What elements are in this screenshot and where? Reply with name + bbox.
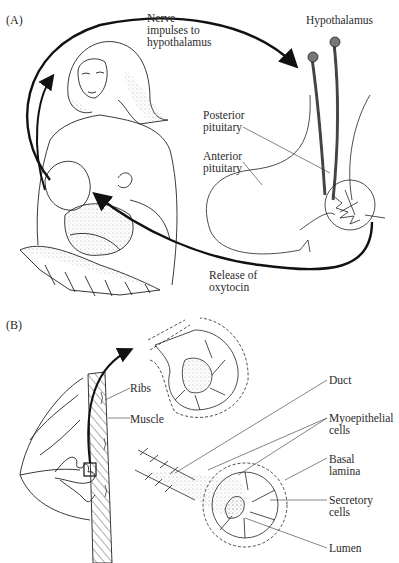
label-muscle: Muscle [130, 413, 164, 425]
label-line: pituitary [203, 121, 245, 133]
alveolus-top [148, 318, 248, 417]
label-myoepithelial-cells: Myoepithelial cells [329, 412, 394, 436]
label-duct: Duct [329, 374, 351, 386]
mother-and-infant-illustration [20, 42, 177, 296]
label-line: Release of [209, 269, 257, 281]
label-line: hypothalamus [147, 36, 212, 48]
callout-lines-a [243, 127, 330, 185]
label-ribs: Ribs [130, 382, 151, 394]
label-basal-lamina: Basal lamina [329, 453, 360, 477]
panel-b-tag: (B) [6, 318, 22, 333]
label-hypothalamus: Hypothalamus [306, 14, 373, 26]
label-secretory-cells: Secretory cells [329, 494, 373, 518]
hypothalamus-pituitary-illustration [206, 37, 385, 254]
label-line: cells [329, 424, 394, 436]
callout-lines-b [105, 380, 327, 548]
label-line: Basal [329, 453, 360, 465]
label-line: Posterior [203, 109, 245, 121]
label-line: Anterior [203, 150, 242, 162]
label-anterior-pituitary: Anterior pituitary [203, 150, 242, 174]
panel-a-tag: (A) [6, 13, 23, 28]
lactation-diagram: (A) Nerve impulses to hypothalamus Hypot… [0, 0, 399, 563]
label-lumen: Lumen [329, 542, 362, 554]
label-line: oxytocin [209, 281, 257, 293]
alveolus-bottom [135, 448, 287, 547]
label-line: impulses to [147, 24, 212, 36]
label-line: Myoepithelial [329, 412, 394, 424]
label-line: cells [329, 506, 373, 518]
label-line: lamina [329, 465, 360, 477]
label-nerve-impulses: Nerve impulses to hypothalamus [147, 12, 212, 48]
label-line: pituitary [203, 162, 242, 174]
label-release-of-oxytocin: Release of oxytocin [209, 269, 257, 293]
breast-cross-section [20, 372, 112, 563]
label-line: Secretory [329, 494, 373, 506]
oxytocin-release-arrow [96, 195, 372, 269]
label-posterior-pituitary: Posterior pituitary [203, 109, 245, 133]
label-line: Nerve [147, 12, 212, 24]
diagram-artwork [0, 0, 399, 563]
